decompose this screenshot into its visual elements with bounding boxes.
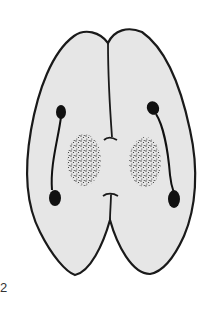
figure-number-label: 2 xyxy=(0,281,7,295)
right-stippled-patch xyxy=(129,137,161,187)
specimen-outline xyxy=(27,29,195,275)
bilobed-specimen-diagram xyxy=(0,0,211,309)
left-stippled-patch xyxy=(67,134,101,186)
